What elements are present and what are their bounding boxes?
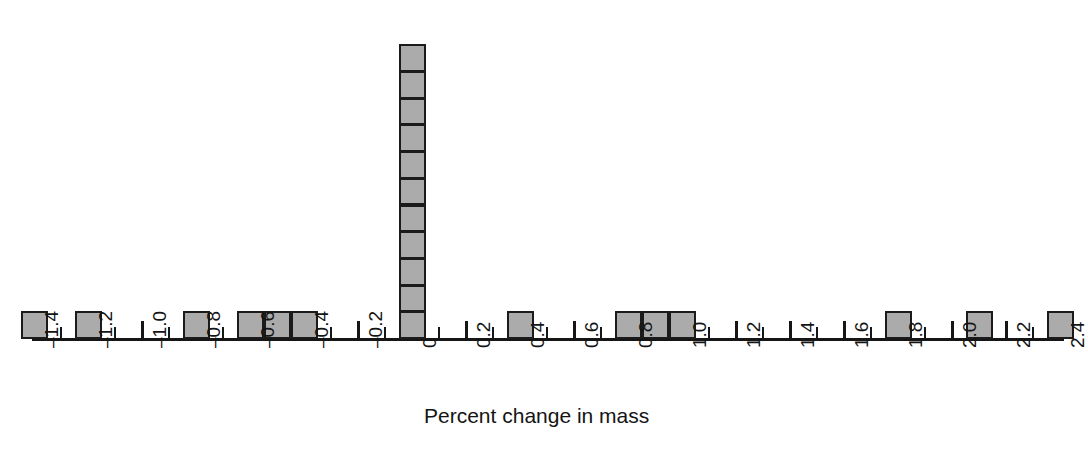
x-tick-label: –1.4 bbox=[42, 311, 61, 348]
histogram-box bbox=[399, 258, 426, 286]
x-tick-label: –0.8 bbox=[204, 311, 223, 348]
x-tick-major bbox=[1005, 321, 1008, 338]
x-tick-label: –1.0 bbox=[150, 311, 169, 348]
x-tick-major bbox=[357, 321, 360, 338]
x-tick-major bbox=[735, 321, 738, 338]
x-tick-major bbox=[573, 321, 576, 338]
histogram-box bbox=[399, 311, 426, 339]
histogram-box bbox=[399, 285, 426, 313]
histogram-box bbox=[399, 178, 426, 206]
x-tick-label: –1.2 bbox=[96, 311, 115, 348]
x-tick-major bbox=[951, 321, 954, 338]
x-tick-label: 1.6 bbox=[852, 322, 871, 348]
histogram-box bbox=[399, 71, 426, 99]
x-tick-label: 0.8 bbox=[636, 322, 655, 348]
x-tick-major bbox=[789, 321, 792, 338]
x-tick-label: 0 bbox=[420, 337, 439, 348]
x-tick-label: –0.4 bbox=[312, 311, 331, 348]
x-tick-label: 2.4 bbox=[1068, 322, 1087, 348]
x-tick-label: 2.0 bbox=[960, 322, 979, 348]
x-tick-label: 0.4 bbox=[528, 322, 547, 348]
x-tick-minor bbox=[438, 327, 440, 338]
x-tick-label: 2.2 bbox=[1014, 322, 1033, 348]
histogram-box bbox=[399, 205, 426, 233]
x-tick-label: 1.2 bbox=[744, 322, 763, 348]
x-tick-major bbox=[141, 321, 144, 338]
histogram-box bbox=[399, 98, 426, 126]
histogram-box bbox=[399, 124, 426, 152]
x-axis-title: Percent change in mass bbox=[424, 404, 649, 428]
x-tick-label: 1.4 bbox=[798, 322, 817, 348]
histogram-box bbox=[399, 44, 426, 72]
x-tick-major bbox=[843, 321, 846, 338]
x-tick-major bbox=[465, 321, 468, 338]
histogram-box bbox=[399, 151, 426, 179]
x-tick-label: –0.6 bbox=[258, 311, 277, 348]
x-tick-label: 0.2 bbox=[474, 322, 493, 348]
x-tick-label: –0.2 bbox=[366, 311, 385, 348]
histogram-box bbox=[399, 231, 426, 259]
x-tick-label: 1.8 bbox=[906, 322, 925, 348]
x-tick-label: 0.6 bbox=[582, 322, 601, 348]
x-tick-label: 1.0 bbox=[690, 322, 709, 348]
